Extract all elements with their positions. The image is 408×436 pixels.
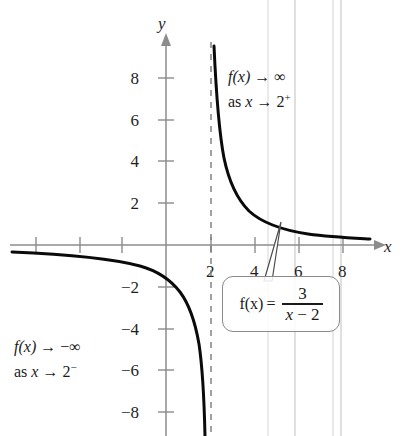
y-axis [158,33,174,436]
annotation-right-arrow2: → [256,93,272,110]
formula-denominator-op: − 2 [293,305,320,324]
annotation-left-fn: f(x) [14,338,36,355]
annotation-right-as: as [228,93,241,110]
y-tick-label-2: 2 [131,194,140,213]
annotation-limit-right-line2: as x → 2+ [228,87,291,112]
annotation-left-superscript: − [70,361,76,373]
formula-equals: = [266,295,275,313]
annotation-left-arrow2: → [42,363,58,380]
figure-container: x y 2 4 6 8 8 6 4 2 −2 −4 −6 −8 [0,0,408,436]
callout-leader-line [264,222,281,281]
y-tick-label-8: 8 [131,69,140,88]
annotation-right-infinity: ∞ [274,68,285,85]
annotation-limit-left-line1: f(x) → −∞ [14,336,81,357]
annotation-right-superscript: + [284,91,290,103]
y-tick-label-neg6: −6 [121,361,139,380]
annotation-left-as: as [14,363,27,380]
annotation-limit-left-line2: as x → 2− [14,357,81,382]
x-axis [10,237,386,253]
formula-fraction: 3 x − 2 [282,285,322,322]
y-tick-label-6: 6 [131,111,140,130]
formula-denominator-var: x [285,305,293,324]
annotation-left-neg-infinity: −∞ [60,338,80,355]
y-tick-label-neg8: −8 [121,403,139,422]
annotation-right-fn: f(x) [228,68,250,85]
y-tick-label-neg2: −2 [121,278,139,297]
formula-callout-box: f(x) = 3 x − 2 [222,276,340,332]
annotation-right-var: x [245,93,252,110]
y-tick-label-4: 4 [131,152,140,171]
y-tick-label-neg4: −4 [121,320,140,339]
formula-lhs: f(x) [239,295,263,313]
annotation-left-var: x [31,363,38,380]
x-axis-label: x [383,237,392,256]
x-tick-label-8: 8 [338,262,347,281]
annotation-limit-left: f(x) → −∞ as x → 2− [14,336,81,382]
annotation-limit-right-line1: f(x) → ∞ [228,66,291,87]
formula-denominator: x − 2 [282,305,322,323]
annotation-right-arrow1: → [254,68,270,85]
annotation-left-arrow1: → [40,338,56,355]
y-axis-label: y [156,14,166,33]
formula-numerator: 3 [294,285,311,303]
x-tick-label-2: 2 [206,262,215,281]
annotation-limit-right: f(x) → ∞ as x → 2+ [228,66,291,112]
formula-callout-content: f(x) = 3 x − 2 [223,277,339,331]
